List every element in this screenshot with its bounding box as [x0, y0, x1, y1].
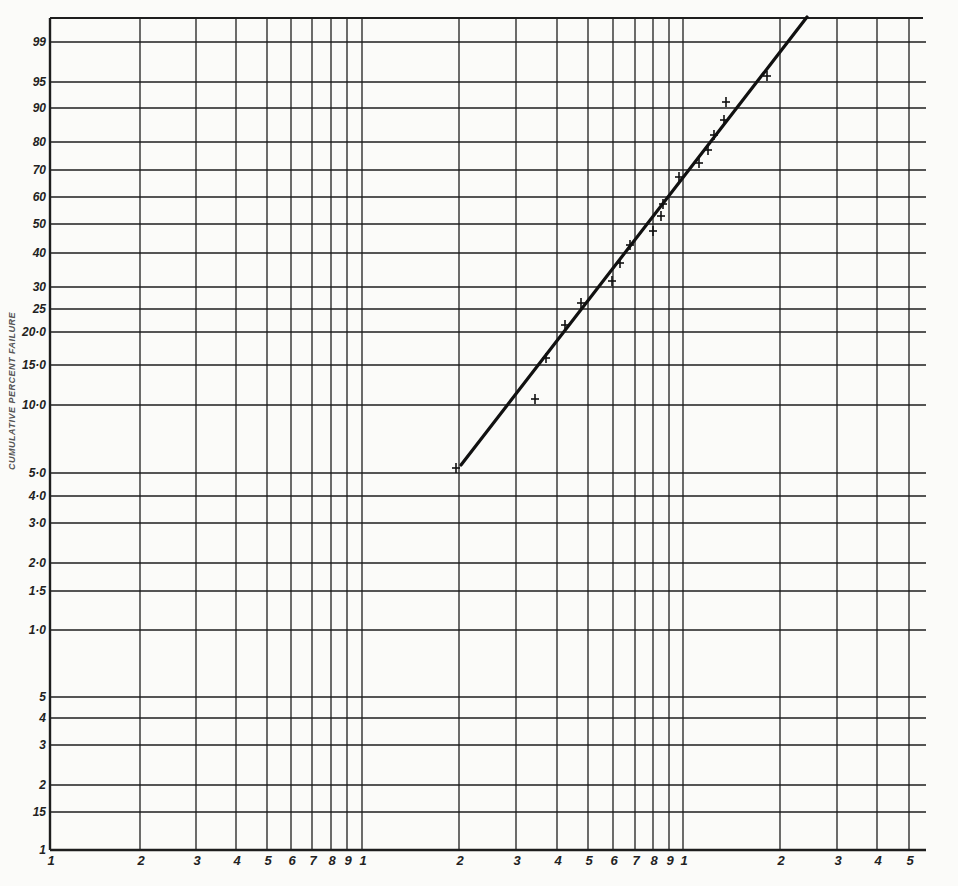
x-tick-label: 4	[229, 854, 245, 867]
x-tick-label: 8	[324, 854, 340, 867]
vertical-gridlines	[50, 18, 909, 850]
x-tick-label: 2	[133, 854, 149, 867]
y-axis-title: CUMULATIVE PERCENT FAILURE	[7, 301, 17, 481]
y-tick-label: 4·0	[6, 490, 46, 502]
x-tick-label: 1	[43, 854, 59, 867]
x-tick-label: 7	[628, 854, 644, 867]
x-tick-label: 1	[355, 854, 371, 867]
y-tick-label: 2·0	[6, 557, 46, 569]
y-tick-label: 90	[6, 102, 46, 114]
x-tick-label: 7	[305, 854, 321, 867]
y-tick-label: 95	[6, 76, 46, 88]
data-point-marker	[657, 211, 665, 221]
x-tick-label: 8	[646, 854, 662, 867]
x-tick-label: 1	[676, 854, 692, 867]
x-tick-label: 6	[606, 854, 622, 867]
x-tick-label: 3	[509, 854, 525, 867]
x-tick-label: 5	[902, 854, 918, 867]
y-tick-label: 50	[6, 218, 46, 230]
y-tick-label: 70	[6, 164, 46, 176]
y-tick-label: 5	[6, 691, 46, 703]
data-point-marker	[616, 258, 624, 268]
x-tick-label: 6	[284, 854, 300, 867]
fitted-line	[461, 17, 807, 465]
y-tick-label: 40	[6, 247, 46, 259]
x-tick-label: 2	[452, 854, 468, 867]
data-point-marker	[531, 394, 539, 404]
plot-frame	[50, 18, 926, 850]
horizontal-gridlines	[50, 42, 926, 850]
y-tick-label: 99	[6, 36, 46, 48]
y-tick-label: 1·0	[6, 624, 46, 636]
probability-plot	[0, 0, 958, 886]
x-tick-label: 5	[260, 854, 276, 867]
data-point-marker	[649, 226, 657, 236]
y-tick-label: 60	[6, 191, 46, 203]
data-point-marker	[720, 115, 728, 125]
x-tick-label: 3	[189, 854, 205, 867]
x-tick-label: 4	[870, 854, 886, 867]
y-tick-label: 3	[6, 739, 46, 751]
x-tick-label: 9	[340, 854, 356, 867]
y-tick-label: 4	[6, 712, 46, 724]
y-tick-label: 3·0	[6, 517, 46, 529]
data-point-marker	[608, 276, 616, 286]
y-tick-label: 1	[6, 844, 46, 856]
y-tick-label: 30	[6, 281, 46, 293]
x-tick-label: 2	[773, 854, 789, 867]
y-tick-label: 1·5	[6, 585, 46, 597]
y-tick-label: 80	[6, 136, 46, 148]
fit-line	[461, 17, 807, 465]
x-tick-label: 5	[581, 854, 597, 867]
data-point-marker	[722, 97, 730, 107]
x-tick-label: 3	[830, 854, 846, 867]
x-tick-label: 4	[550, 854, 566, 867]
y-tick-label: 2	[6, 779, 46, 791]
y-tick-label: 15	[6, 806, 46, 818]
data-point-marker	[542, 353, 550, 363]
